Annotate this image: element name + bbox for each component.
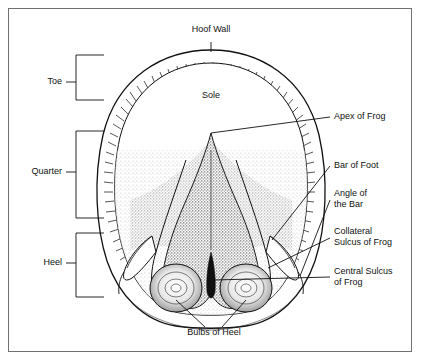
label-hoof-wall: Hoof Wall [171,24,251,35]
label-bar-of-foot: Bar of Foot [334,160,414,171]
label-central-sulcus-of-frog: Central Sulcus of Frog [334,266,418,288]
diagram-page: Hoof Wall Sole Toe Quarter Heel Apex of … [0,0,422,362]
hoof-illustration [0,0,422,362]
label-toe: Toe [22,76,62,87]
label-sole: Sole [185,90,237,101]
label-apex-of-frog: Apex of Frog [334,111,418,122]
label-collateral-sulcus-of-frog: Collateral Sulcus of Frog [334,226,416,248]
label-bulbs-of-heel: Bulbs of Heel [172,327,256,338]
label-quarter: Quarter [12,166,62,177]
label-angle-of-the-bar: Angle of the Bar [334,188,410,210]
label-heel: Heel [22,257,62,268]
